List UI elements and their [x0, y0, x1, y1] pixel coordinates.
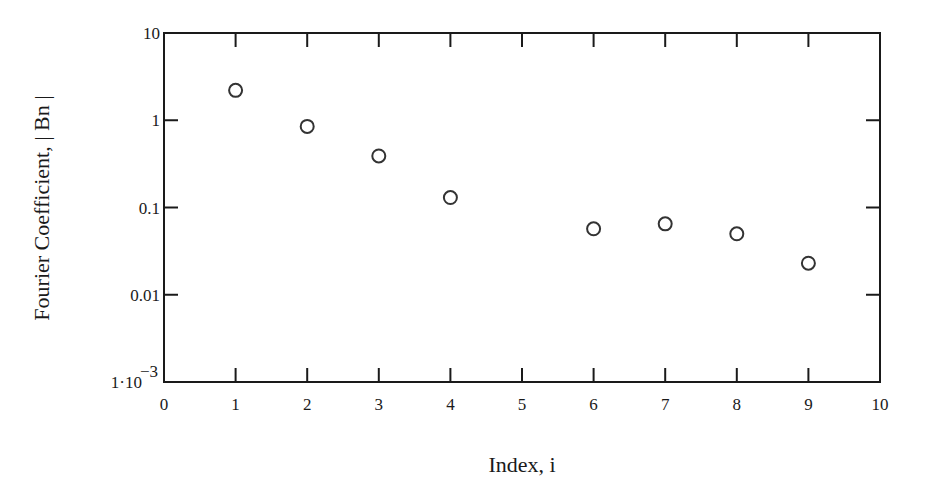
y-tick-label-exponent: −3	[140, 362, 158, 381]
data-point	[444, 191, 457, 204]
y-tick-label: 1·10	[111, 373, 142, 392]
x-tick-label: 6	[589, 395, 598, 414]
x-tick-label: 2	[303, 395, 312, 414]
x-tick-label: 0	[160, 395, 169, 414]
plot-border	[164, 33, 880, 382]
x-tick-label: 5	[518, 395, 527, 414]
y-axis-title: Fourier Coefficient, | Bn |	[29, 95, 54, 320]
x-tick-label: 7	[661, 395, 670, 414]
y-tick-label: 0.1	[139, 199, 160, 218]
data-point	[802, 257, 815, 270]
x-axis-title: Index, i	[488, 452, 555, 477]
x-tick-label: 8	[733, 395, 742, 414]
data-point	[587, 222, 600, 235]
data-point	[730, 227, 743, 240]
plot-frame	[164, 33, 880, 382]
chart: 012345678910 1010.10.011·10−3 Index, i F…	[0, 0, 928, 497]
x-tick-label: 1	[231, 395, 240, 414]
y-tick-label: 10	[143, 24, 160, 43]
x-tick-label: 9	[804, 395, 813, 414]
data-point	[229, 84, 242, 97]
y-tick-label: 1	[152, 111, 161, 130]
x-tick-label: 3	[375, 395, 384, 414]
x-tick-label: 4	[446, 395, 455, 414]
data-point	[372, 149, 385, 162]
y-axis-ticks: 1010.10.011·10−3	[111, 24, 880, 392]
x-tick-label: 10	[872, 395, 889, 414]
y-tick-label: 0.01	[130, 286, 160, 305]
data-point	[301, 120, 314, 133]
data-point	[659, 217, 672, 230]
x-axis-ticks: 012345678910	[160, 33, 889, 414]
data-points	[229, 84, 815, 270]
